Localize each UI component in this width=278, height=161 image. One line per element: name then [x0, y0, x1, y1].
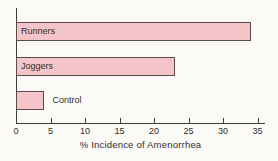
x-tick-30 — [223, 118, 224, 123]
x-tick-35 — [258, 118, 259, 123]
x-tick-label-25: 25 — [178, 126, 200, 136]
x-tick-label-0: 0 — [5, 126, 27, 136]
x-tick-20 — [154, 118, 155, 123]
x-tick-label-5: 5 — [40, 126, 62, 136]
x-tick-label-35: 35 — [247, 126, 269, 136]
x-tick-5 — [51, 118, 52, 123]
bar-control — [16, 91, 44, 110]
x-axis-title: % Incidence of Amenorrhea — [16, 139, 265, 150]
x-tick-10 — [85, 118, 86, 123]
bar-label-runners: Runners — [21, 22, 55, 41]
x-tick-label-30: 30 — [212, 126, 234, 136]
x-tick-label-15: 15 — [109, 126, 131, 136]
x-tick-label-10: 10 — [74, 126, 96, 136]
bar-label-joggers: Joggers — [21, 57, 53, 76]
x-tick-25 — [189, 118, 190, 123]
bar-label-control: Control — [53, 91, 82, 110]
x-axis-line — [16, 123, 265, 124]
x-tick-15 — [120, 118, 121, 123]
bar-chart-figure: RunnersJoggersControl 05101520253035 % I… — [0, 0, 278, 161]
x-tick-label-20: 20 — [143, 126, 165, 136]
x-tick-0 — [16, 118, 17, 123]
